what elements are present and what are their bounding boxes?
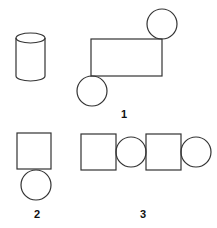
figure-1-circle-bottom-left [77,76,107,106]
figure-1-label: 1 [121,108,127,120]
figure-1-rectangle [91,39,162,76]
figure-2-label: 2 [34,208,40,220]
figure-3-square-2 [146,134,181,170]
figure-1: 1 [77,9,177,120]
figure-2: 2 [17,133,51,220]
figure-3-label: 3 [140,208,146,220]
cylinder-shape [16,33,45,81]
figure-3: 3 [81,134,211,220]
figure-3-circle-1 [116,137,146,167]
cylinder-body [16,38,45,81]
figure-2-circle [21,170,51,200]
figure-3-square-1 [81,134,116,170]
diagram-canvas: 1 2 3 [0,0,217,228]
figure-3-circle-2 [181,137,211,167]
figure-2-square [17,133,51,169]
figure-1-circle-top-right [147,9,177,39]
cylinder-top [16,33,45,43]
